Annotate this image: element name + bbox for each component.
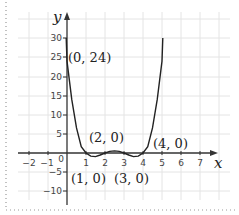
y-tick: −10 <box>43 186 62 196</box>
x-tick-labels: −2 −1 1 2 3 4 5 6 7 0 <box>22 154 203 168</box>
y-tick: 5 <box>56 129 62 139</box>
x-tick: 4 <box>140 158 146 168</box>
y-axis-arrow-icon <box>64 12 70 20</box>
y-tick: 30 <box>51 33 63 43</box>
y-tick: 15 <box>51 91 62 101</box>
origin-label: 0 <box>58 154 64 164</box>
quartic-chart: −2 −1 1 2 3 4 5 6 7 0 30 25 20 15 10 5 −… <box>0 0 239 215</box>
x-tick: 6 <box>178 158 184 168</box>
x-tick: −2 <box>22 158 35 168</box>
annotation-0-24: (0, 24) <box>68 50 111 65</box>
annotation-1-0: (1, 0) <box>71 171 106 186</box>
y-tick: 10 <box>51 110 63 120</box>
x-tick: 2 <box>102 158 108 168</box>
y-tick: 25 <box>51 52 62 62</box>
x-tick: 1 <box>83 158 89 168</box>
annotation-2-0: (2, 0) <box>89 130 124 145</box>
annotation-4-0: (4, 0) <box>153 136 188 151</box>
y-axis-label: y <box>52 8 62 26</box>
annotation-3-0: (3, 0) <box>114 171 149 186</box>
y-tick: 20 <box>51 72 63 82</box>
x-tick: 7 <box>197 158 203 168</box>
x-tick: 5 <box>159 158 165 168</box>
y-tick: −5 <box>49 167 62 177</box>
x-tick: 3 <box>121 158 127 168</box>
x-axis-label: x <box>214 154 223 172</box>
